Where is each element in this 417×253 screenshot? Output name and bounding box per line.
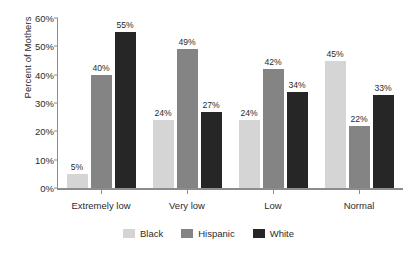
bar[interactable]: 33% bbox=[373, 95, 394, 189]
y-axis-tick-label: 40% bbox=[35, 69, 54, 80]
x-axis-labels: Extremely lowVery lowLowNormal bbox=[58, 190, 402, 211]
legend-label: Hispanic bbox=[198, 228, 234, 239]
bar[interactable]: 24% bbox=[239, 120, 260, 188]
y-axis-tick-label: 10% bbox=[35, 154, 54, 165]
bar-chart: Percent of Mothers 0%10%20%30%40%50%60% … bbox=[0, 0, 417, 253]
bar[interactable]: 24% bbox=[153, 120, 174, 188]
y-axis-tick-label: 60% bbox=[35, 13, 54, 24]
bar-value-label: 49% bbox=[178, 37, 195, 47]
x-axis-category-text: Extremely low bbox=[71, 200, 130, 211]
bar-value-label: 34% bbox=[288, 80, 305, 90]
bar-slot: 27% bbox=[201, 112, 222, 189]
bar[interactable]: 45% bbox=[325, 61, 346, 189]
bar-value-label: 5% bbox=[71, 162, 83, 172]
bar-value-label: 42% bbox=[264, 57, 281, 67]
bar-group: 24%42%34% bbox=[230, 18, 316, 188]
bar[interactable]: 49% bbox=[177, 49, 198, 188]
bar-group: 24%49%27% bbox=[144, 18, 230, 188]
bar-slot: 40% bbox=[91, 75, 112, 188]
bar-value-label: 33% bbox=[374, 83, 391, 93]
bar[interactable]: 55% bbox=[115, 32, 136, 188]
x-axis-tick-mark bbox=[101, 190, 102, 194]
bar-groups: 5%40%55%24%49%27%24%42%34%45%22%33% bbox=[58, 18, 402, 188]
x-axis-category-text: Low bbox=[264, 200, 281, 211]
x-axis-category-text: Normal bbox=[344, 200, 375, 211]
bar-value-label: 27% bbox=[202, 100, 219, 110]
bar-group: 5%40%55% bbox=[58, 18, 144, 188]
x-axis-category-label: Normal bbox=[316, 190, 402, 211]
bar-value-label: 40% bbox=[92, 63, 109, 73]
bar-slot: 24% bbox=[239, 120, 260, 188]
bar[interactable]: 27% bbox=[201, 112, 222, 189]
bar-slot: 45% bbox=[325, 61, 346, 189]
bar-group-bars: 24%42%34% bbox=[230, 18, 316, 188]
x-axis-category-label: Low bbox=[230, 190, 316, 211]
bar-value-label: 22% bbox=[350, 114, 367, 124]
y-axis-tick-label: 0% bbox=[40, 183, 54, 194]
legend-swatch-icon bbox=[123, 229, 135, 238]
bar-slot: 24% bbox=[153, 120, 174, 188]
legend-label: Black bbox=[140, 228, 163, 239]
bar[interactable]: 42% bbox=[263, 69, 284, 188]
y-axis-title: Percent of Mothers bbox=[22, 0, 33, 133]
bar[interactable]: 22% bbox=[349, 126, 370, 188]
y-axis-tick-label: 20% bbox=[35, 126, 54, 137]
x-axis-tick-mark bbox=[187, 190, 188, 194]
bar-group: 45%22%33% bbox=[316, 18, 402, 188]
bar-slot: 49% bbox=[177, 49, 198, 188]
bar-slot: 33% bbox=[373, 95, 394, 189]
bar-value-label: 55% bbox=[116, 20, 133, 30]
bar-value-label: 24% bbox=[240, 108, 257, 118]
bar-slot: 55% bbox=[115, 32, 136, 188]
legend-swatch-icon bbox=[181, 229, 193, 238]
y-axis-tick-label: 50% bbox=[35, 41, 54, 52]
bar[interactable]: 40% bbox=[91, 75, 112, 188]
x-axis-tick-mark bbox=[273, 190, 274, 194]
legend-item[interactable]: Black bbox=[123, 228, 163, 239]
legend-item[interactable]: Hispanic bbox=[181, 228, 234, 239]
bar-value-label: 45% bbox=[326, 49, 343, 59]
x-axis-category-label: Very low bbox=[144, 190, 230, 211]
bar-group-bars: 45%22%33% bbox=[316, 18, 402, 188]
bar-slot: 5% bbox=[67, 174, 88, 188]
x-axis-category-label: Extremely low bbox=[58, 190, 144, 211]
chart-legend: BlackHispanicWhite bbox=[0, 228, 417, 239]
x-axis-category-text: Very low bbox=[169, 200, 205, 211]
legend-item[interactable]: White bbox=[253, 228, 294, 239]
plot-area: 0%10%20%30%40%50%60% 5%40%55%24%49%27%24… bbox=[58, 18, 402, 188]
bar[interactable]: 5% bbox=[67, 174, 88, 188]
y-axis-tick-label: 30% bbox=[35, 98, 54, 109]
bar-slot: 34% bbox=[287, 92, 308, 188]
bar-slot: 42% bbox=[263, 69, 284, 188]
bar-value-label: 24% bbox=[154, 108, 171, 118]
bar-group-bars: 5%40%55% bbox=[58, 18, 144, 188]
bar-slot: 22% bbox=[349, 126, 370, 188]
x-axis-tick-mark bbox=[359, 190, 360, 194]
legend-swatch-icon bbox=[253, 229, 265, 238]
bar-group-bars: 24%49%27% bbox=[144, 18, 230, 188]
bar[interactable]: 34% bbox=[287, 92, 308, 188]
legend-label: White bbox=[270, 228, 294, 239]
